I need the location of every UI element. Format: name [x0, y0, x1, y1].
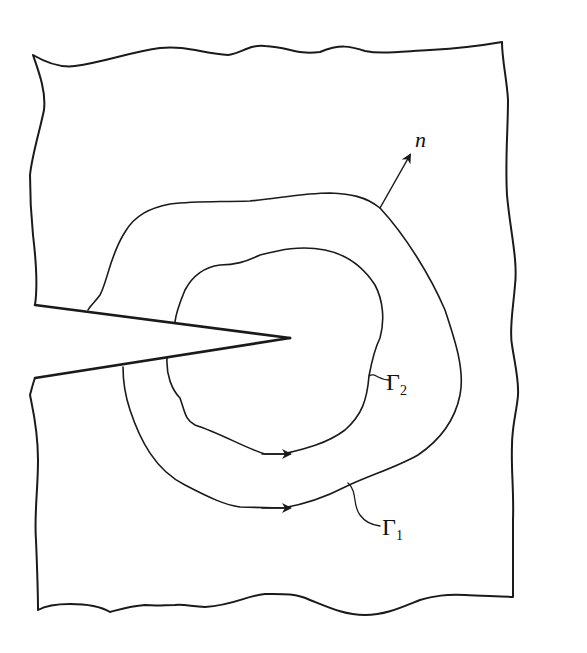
diagram-canvas: [0, 0, 587, 653]
normal-vector-arrow: [380, 155, 410, 208]
gamma-2-label: Γ2: [386, 369, 407, 399]
gamma-1-subscript: 1: [396, 528, 403, 543]
contour-gamma-1: [88, 193, 461, 508]
gamma-2-symbol: Γ: [386, 369, 400, 395]
normal-label: n: [415, 127, 426, 153]
gamma-1-leader: [348, 483, 380, 526]
gamma-1-label: Γ1: [382, 514, 403, 544]
plate-outline: [30, 42, 518, 615]
gamma-1-symbol: Γ: [382, 514, 396, 540]
crack-lower-face: [35, 338, 290, 378]
gamma-2-subscript: 2: [400, 383, 407, 398]
crack-upper-face: [35, 305, 290, 338]
